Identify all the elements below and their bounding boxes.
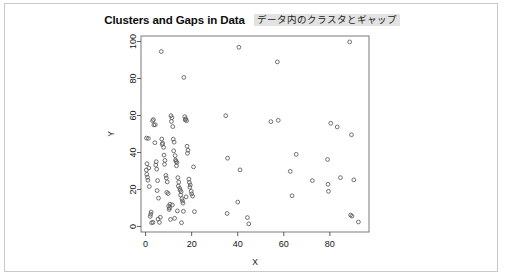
data-point	[275, 60, 279, 64]
data-point	[185, 144, 189, 148]
data-point	[226, 156, 230, 160]
data-point	[329, 121, 333, 125]
data-point	[145, 162, 149, 166]
data-point	[348, 40, 352, 44]
data-point	[350, 133, 354, 137]
y-tick-label: 60	[128, 111, 138, 121]
data-point	[151, 119, 155, 123]
data-point	[162, 153, 166, 157]
data-point	[147, 185, 151, 189]
data-point	[184, 195, 188, 199]
y-tick-label: 80	[128, 74, 138, 84]
data-point	[155, 189, 159, 193]
data-point	[159, 50, 163, 54]
plot-frame	[141, 36, 369, 232]
y-axis-title: Y	[106, 131, 116, 137]
data-point	[357, 220, 361, 224]
data-point	[144, 168, 148, 172]
y-tick-label: 20	[128, 184, 138, 194]
data-point	[158, 220, 162, 224]
scatter-plot-svg: 020406080020406080100XY	[5, 4, 499, 273]
x-axis-title: X	[252, 257, 258, 267]
data-point	[326, 182, 330, 186]
x-tick-label: 60	[279, 239, 289, 249]
data-point	[246, 216, 250, 220]
data-point	[169, 218, 173, 222]
data-point	[335, 125, 339, 129]
data-point	[238, 168, 242, 172]
data-point	[288, 169, 292, 173]
chart-card: Clusters and Gaps in Data データ内のクラスタとギャップ…	[4, 3, 498, 272]
y-tick-label: 100	[128, 34, 138, 49]
data-point	[156, 179, 160, 183]
data-point	[193, 210, 197, 214]
data-point	[237, 45, 241, 49]
data-point	[339, 176, 343, 180]
data-point	[327, 189, 331, 193]
data-point	[173, 216, 177, 220]
data-point	[172, 149, 176, 153]
data-point	[225, 212, 229, 216]
data-point	[326, 158, 330, 162]
data-point	[155, 167, 159, 171]
data-point	[175, 209, 179, 213]
x-tick-label: 80	[325, 239, 335, 249]
data-point	[171, 125, 175, 129]
data-point-group	[144, 40, 360, 226]
x-tick-label: 40	[233, 239, 243, 249]
data-point	[192, 165, 196, 169]
data-point	[236, 200, 240, 204]
data-point	[177, 180, 181, 184]
data-point	[164, 176, 168, 180]
data-point	[180, 221, 184, 225]
data-point	[310, 179, 314, 183]
x-tick-label: 20	[187, 239, 197, 249]
data-point	[294, 152, 298, 156]
data-point	[247, 222, 251, 226]
data-point	[160, 137, 164, 141]
data-point	[163, 159, 167, 163]
data-point	[147, 166, 151, 170]
data-point	[352, 178, 356, 182]
data-point	[276, 118, 280, 122]
y-tick-label: 0	[128, 224, 138, 229]
data-point	[165, 180, 169, 184]
data-point	[157, 196, 161, 200]
data-point	[182, 76, 186, 80]
data-point	[170, 120, 174, 124]
data-point	[224, 114, 228, 118]
data-point	[290, 194, 294, 198]
data-point	[163, 162, 167, 166]
data-point	[153, 141, 157, 145]
data-point	[173, 154, 177, 158]
data-point	[176, 176, 180, 180]
y-tick-label: 40	[128, 147, 138, 157]
scatter-plot: 020406080020406080100XY	[5, 4, 499, 273]
data-point	[181, 209, 185, 213]
x-tick-label: 0	[143, 239, 148, 249]
data-point	[269, 120, 273, 124]
